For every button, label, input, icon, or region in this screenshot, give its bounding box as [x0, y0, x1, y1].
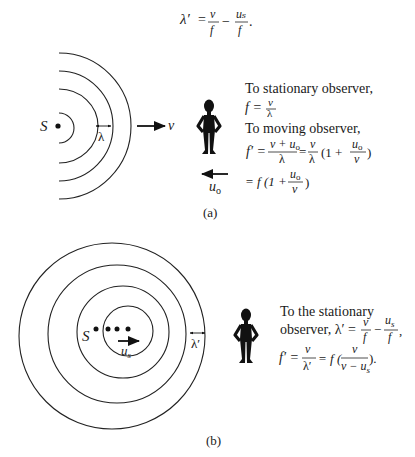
wavelength-prime-label: λ′: [191, 336, 200, 351]
part-a: S λ v uo (a) To stationary observer, f =…: [40, 53, 373, 220]
top-eq-equals: =: [198, 12, 206, 27]
a-line4-frac1-den: λ: [279, 152, 285, 166]
a-line4-paren-close: ): [367, 145, 371, 160]
b-line3-close: ).: [369, 351, 377, 366]
b-line3-frac1-num: v: [305, 342, 311, 356]
source-dot: [55, 123, 60, 128]
b-line3-frac2-den: v − us: [341, 359, 370, 375]
a-line4-paren-open: (1 +: [321, 145, 342, 160]
source-velocity-label: us: [121, 343, 132, 360]
b-line3-frac2-num: v: [352, 342, 358, 356]
source-position-2: [106, 327, 111, 332]
a-line4-lhs: f′ =: [246, 144, 266, 159]
a-line4-frac3-num: uo: [352, 137, 363, 152]
source-position-3: [115, 327, 120, 332]
source-label: S: [40, 118, 48, 134]
wavefront-arc-1: [59, 113, 74, 143]
b-line2-frac1-den: f: [363, 330, 368, 344]
observer-velocity-label: uo: [209, 179, 221, 196]
b-line2-frac2-num: us: [385, 313, 395, 329]
a-text-line1: To stationary observer,: [245, 81, 373, 96]
b-line2-frac2-den: f: [388, 330, 393, 344]
source-position-1: [94, 327, 99, 332]
top-eq-period: .: [249, 14, 253, 29]
source-label-b: S: [82, 328, 90, 344]
top-eq-t1-den: f: [210, 23, 215, 37]
part-b: S us λ′ (b) To the stationary observer, …: [19, 243, 402, 448]
wavelength-label: λ: [98, 129, 105, 144]
top-eq-minus: −: [222, 14, 230, 29]
top-equation: λ′ = v f − uₛ f .: [179, 7, 253, 37]
stationary-observer-figure: [235, 309, 257, 364]
a-line4-frac1-num: v + uo: [270, 137, 300, 152]
a-line4-frac3-den: v: [354, 152, 360, 166]
top-eq-t1-num: v: [210, 7, 216, 21]
b-line3-eq: = f (: [318, 351, 342, 366]
b-line2-frac1-num: v: [363, 315, 369, 329]
b-line2-prefix: observer, λ′ =: [280, 322, 356, 337]
a-line4-eq: =: [299, 144, 306, 159]
doppler-diagram: λ′ = v f − uₛ f . S λ v uo (a) To statio…: [0, 0, 415, 457]
a-line5-close: ): [305, 175, 309, 190]
a-line5-lhs: = f (1 +: [245, 174, 287, 189]
wavefront-circle-2: [77, 286, 169, 378]
wavefront-circle-outer: [19, 243, 205, 429]
a-line4-frac2-num: v: [310, 137, 316, 151]
moving-observer-figure: [198, 100, 220, 155]
a-text-line2-lhs: f =: [245, 100, 262, 115]
b-line3-lhs: f′ =: [279, 350, 299, 365]
a-line4-frac2-den: λ: [309, 152, 315, 166]
source-position-4: [126, 327, 131, 332]
wavefront-arc-2: [59, 89, 98, 163]
top-eq-t2-num: uₛ: [236, 7, 246, 21]
a-text-line3: To moving observer,: [245, 121, 361, 136]
caption-a: (a): [203, 205, 217, 220]
b-line2-comma: ,: [399, 323, 402, 338]
b-line2-minus: −: [374, 322, 381, 337]
b-line3-frac1-den: λ′: [303, 359, 312, 373]
top-eq-t2-den: f: [238, 23, 243, 37]
a-line5-frac-den: v: [292, 182, 298, 196]
wavefront-arc-4: [59, 53, 131, 199]
top-eq-lhs: λ′: [179, 11, 190, 27]
a-line5-frac-num: uo: [290, 167, 301, 182]
caption-b: (b): [206, 433, 221, 448]
wavefront-circle-3: [48, 265, 186, 403]
b-text-line1: To the stationary: [280, 304, 374, 319]
wave-velocity-label: v: [168, 118, 175, 133]
a-line2-den: λ: [267, 107, 273, 119]
